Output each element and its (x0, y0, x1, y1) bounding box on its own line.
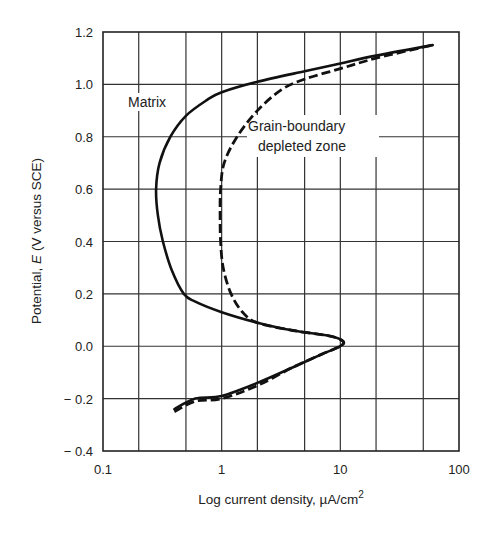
y-tick-label: 0.0 (75, 339, 93, 354)
x-tick-label: 10 (333, 462, 347, 477)
x-tick-label: 100 (448, 462, 470, 477)
x-tick-label: 1 (218, 462, 225, 477)
curves (156, 45, 433, 412)
y-tick-label: 1.0 (75, 77, 93, 92)
y-tick-label: 0.8 (75, 130, 93, 145)
grain-boundary-annotation-line2: depleted zone (258, 138, 346, 154)
y-axis-ticks: 1.21.00.80.60.40.20.0− 0.2− 0.4 (64, 25, 93, 459)
grain-boundary-annotation-line1: Grain-boundary (248, 118, 345, 134)
y-tick-label: 1.2 (75, 25, 93, 40)
x-axis-ticks: 0.1110100 (94, 462, 470, 477)
y-tick-label: 0.6 (75, 182, 93, 197)
y-tick-label: 0.4 (75, 235, 93, 250)
y-axis-label: Potential, E (V versus SCE) (29, 158, 44, 324)
x-tick-label: 0.1 (94, 462, 112, 477)
matrix-annotation: Matrix (128, 94, 166, 110)
y-tick-label: − 0.2 (64, 392, 93, 407)
matrix-curve (156, 45, 433, 409)
polarization-chart: 1.21.00.80.60.40.20.0− 0.2− 0.4 0.111010… (0, 0, 494, 536)
y-tick-label: − 0.4 (64, 444, 93, 459)
grain-boundary-curve (174, 45, 432, 412)
y-tick-label: 0.2 (75, 287, 93, 302)
x-axis-label: Log current density, µA/cm2 (198, 489, 364, 507)
